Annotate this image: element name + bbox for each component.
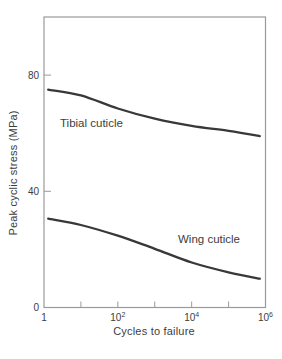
wing-curve-label: Wing cuticle bbox=[178, 233, 240, 245]
x-tick-label: 104 bbox=[184, 311, 199, 323]
wing-cuticle-curve bbox=[48, 219, 260, 279]
x-tick-label: 1 bbox=[41, 312, 47, 323]
plot-border bbox=[44, 17, 266, 308]
x-tick-label: 102 bbox=[110, 311, 125, 323]
x-axis-title: Cycles to failure bbox=[113, 325, 195, 337]
tibial-curve-label: Tibial cuticle bbox=[60, 117, 123, 129]
chart-canvas: 040801102104106 Tibial cuticle Wing cuti… bbox=[0, 0, 282, 359]
y-tick-label: 80 bbox=[28, 70, 40, 81]
fatigue-life-chart: 040801102104106 Tibial cuticle Wing cuti… bbox=[0, 0, 282, 359]
x-tick-label: 106 bbox=[258, 311, 273, 323]
y-tick-label: 40 bbox=[28, 186, 40, 197]
axis-ticks bbox=[44, 75, 229, 307]
axis-tick-labels: 040801102104106 bbox=[28, 70, 273, 323]
tibial-cuticle-curve bbox=[48, 90, 260, 137]
y-tick-label: 0 bbox=[33, 302, 39, 313]
y-axis-title: Peak cyclic stress (MPa) bbox=[7, 110, 19, 235]
